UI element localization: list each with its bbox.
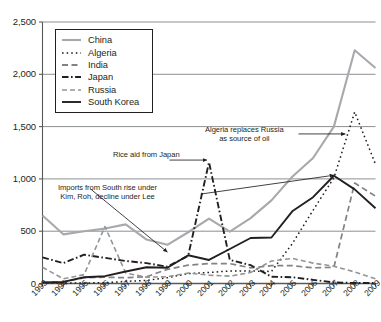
- annotation-line: Imports from South rise under: [58, 183, 157, 192]
- legend-item-south-korea: South Korea: [61, 96, 147, 108]
- legend-swatch-russia: [61, 85, 82, 95]
- chart-legend: China Algeria India Japan Russia South K…: [55, 29, 153, 113]
- y-axis-tick-label: 2,000: [0, 68, 36, 79]
- annotation-line: Kim, Roh, decline under Lee: [58, 192, 157, 201]
- legend-swatch-south-korea: [61, 97, 82, 107]
- annotation-korea-note: Imports from South rise underKim, Roh, d…: [58, 183, 157, 202]
- annotation-line: as source of oil: [205, 134, 284, 143]
- legend-swatch-algeria: [61, 48, 82, 58]
- y-axis-tick-label: 500: [0, 225, 36, 236]
- annotation-algeria-note: Algeria replaces Russiaas source of oil: [205, 125, 284, 144]
- annotation-japan-note: Rice aid from Japan: [113, 150, 180, 159]
- y-axis-tick-label: 0: [0, 278, 36, 289]
- series-line-russia: [43, 226, 376, 278]
- legend-label-algeria: Algeria: [88, 48, 117, 58]
- line-chart: China Algeria India Japan Russia South K…: [0, 0, 381, 322]
- legend-swatch-japan: [61, 72, 82, 82]
- legend-label-india: India: [88, 60, 108, 70]
- legend-item-russia: Russia: [61, 84, 147, 96]
- legend-label-russia: Russia: [88, 85, 116, 95]
- annotation-line: Algeria replaces Russia: [205, 125, 284, 134]
- legend-item-india: India: [61, 59, 147, 71]
- legend-swatch-china: [61, 35, 82, 45]
- annotation-arrow2-korea-note: [201, 175, 334, 194]
- legend-label-china: China: [88, 35, 112, 45]
- y-axis-tick-label: 1,000: [0, 173, 36, 184]
- legend-item-algeria: Algeria: [61, 46, 147, 58]
- legend-label-south-korea: South Korea: [88, 97, 139, 107]
- annotation-line: Rice aid from Japan: [113, 150, 180, 159]
- legend-item-china: China: [61, 34, 147, 46]
- legend-label-japan: Japan: [88, 72, 113, 82]
- y-axis-tick-label: 2,500: [0, 16, 36, 27]
- legend-swatch-india: [61, 60, 82, 70]
- y-axis-tick-label: 1,500: [0, 121, 36, 132]
- legend-item-japan: Japan: [61, 71, 147, 83]
